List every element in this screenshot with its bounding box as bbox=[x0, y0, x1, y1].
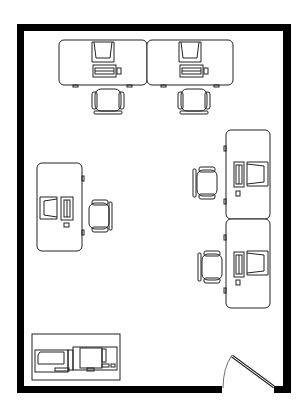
workstation-top-right bbox=[147, 40, 233, 114]
desk bbox=[226, 130, 270, 219]
door-swing-arc bbox=[223, 355, 232, 388]
printer-icon bbox=[35, 350, 68, 372]
chair-icon bbox=[89, 200, 112, 232]
cabinet-outline bbox=[32, 334, 120, 380]
chair-icon bbox=[178, 89, 210, 114]
workstation-top-left bbox=[59, 40, 147, 114]
door[interactable] bbox=[223, 355, 274, 388]
equipment-cabinet bbox=[32, 334, 120, 380]
wall-bottom-right bbox=[274, 386, 291, 393]
screen-icon bbox=[80, 348, 102, 368]
chair-icon bbox=[198, 251, 222, 283]
wall-left bbox=[17, 24, 24, 393]
door-leaf-inner bbox=[232, 356, 274, 387]
floor-plan bbox=[0, 0, 307, 415]
desk bbox=[226, 219, 270, 308]
wall-bottom-left bbox=[17, 386, 222, 393]
workstation-right-lower bbox=[198, 219, 270, 308]
chair-icon bbox=[92, 89, 124, 114]
wall-right bbox=[283, 24, 291, 393]
workstation-right-upper bbox=[193, 130, 270, 219]
wall-top bbox=[17, 24, 291, 31]
workstation-left bbox=[37, 163, 112, 251]
chair-icon bbox=[193, 167, 217, 199]
